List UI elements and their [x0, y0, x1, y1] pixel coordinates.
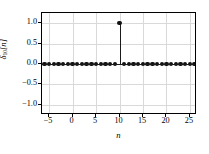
y-axis-tick-label: 0.0	[7, 58, 37, 67]
y-axis-label: δ10[n]	[0, 29, 8, 69]
x-axis-tick-label: 25	[174, 116, 204, 125]
y-axis-label-symbol: δ	[0, 56, 8, 60]
plot-axes-frame	[41, 12, 196, 114]
y-axis-tick	[38, 22, 41, 23]
stem-plot-figure: −50510152025−1.0−0.50.00.51.0 n δ10[n]	[0, 0, 209, 154]
stem-line	[120, 23, 121, 64]
y-axis-tick-label: −1.0	[7, 99, 37, 108]
y-axis-tick	[38, 104, 41, 105]
data-layer	[42, 13, 195, 113]
y-axis-tick-label: −0.5	[7, 78, 37, 87]
y-axis-tick-label: 1.0	[7, 17, 37, 26]
y-axis-label-argument: [n]	[0, 39, 8, 50]
data-point-marker	[117, 21, 121, 25]
y-axis-label-subscript: 10	[2, 50, 8, 56]
x-axis-label: n	[41, 130, 196, 140]
y-axis-tick	[38, 63, 41, 64]
y-axis-tick	[38, 83, 41, 84]
y-axis-tick-label: 0.5	[7, 38, 37, 47]
y-axis-tick	[38, 43, 41, 44]
baseline	[42, 64, 195, 65]
